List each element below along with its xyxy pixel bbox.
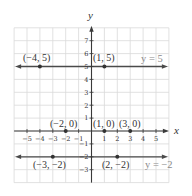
data-point: [38, 65, 42, 69]
y-tick-label: 4: [84, 76, 88, 84]
data-point: [128, 129, 132, 133]
x-tick-label: 5: [154, 135, 158, 143]
x-tick-label: −5: [22, 135, 32, 143]
y-tick-label: −1: [79, 140, 89, 148]
y-tick-label: 7: [84, 37, 88, 45]
data-point: [102, 129, 106, 133]
y-tick-label: 2: [84, 102, 88, 110]
point-label-1-0: (1, 0): [93, 118, 115, 130]
y-tick-label: 1: [84, 114, 88, 122]
arrow-right-icon: [162, 64, 168, 68]
y-tick-label: 5: [84, 63, 88, 71]
x-tick-label: 3: [128, 135, 132, 143]
data-point: [64, 129, 68, 133]
y-tick-label: −2: [79, 153, 89, 161]
line-label-y-neg2: y = −2: [145, 159, 173, 170]
y-tick-label: −3: [79, 166, 89, 174]
x-axis-arrow-icon: [163, 129, 169, 133]
x-tick-label: −4: [35, 135, 45, 143]
data-point: [102, 65, 106, 69]
x-tick-label: 1: [102, 135, 106, 143]
line-label-y5: y = 5: [141, 53, 163, 64]
y-tick-label: 3: [84, 89, 88, 97]
x-tick-label: 2: [115, 135, 119, 143]
point-label-neg3-neg2: (−3, −2): [33, 159, 66, 171]
point-label-2-neg2: (2, −2): [102, 159, 129, 171]
point-label-1-5: (1, 5): [93, 52, 115, 64]
y-tick-label: 6: [84, 50, 88, 58]
arrow-left-icon: [15, 155, 21, 159]
x-tick-label: 4: [141, 135, 145, 143]
x-axis-label: x: [173, 124, 179, 136]
point-label-3-0: (3, 0): [119, 118, 141, 130]
coordinate-plane: −5−4−3−2−112345−3−2−11234567 x y y = 5 y…: [0, 0, 192, 196]
x-tick-label: −3: [48, 135, 58, 143]
x-tick-label: −2: [61, 135, 71, 143]
point-label-neg2-0: (−2, 0): [50, 118, 77, 130]
point-label-neg4-5: (−4, 5): [23, 52, 50, 64]
y-axis-label: y: [87, 9, 93, 21]
arrow-left-icon: [15, 64, 21, 68]
y-axis-arrow-icon: [89, 26, 93, 32]
